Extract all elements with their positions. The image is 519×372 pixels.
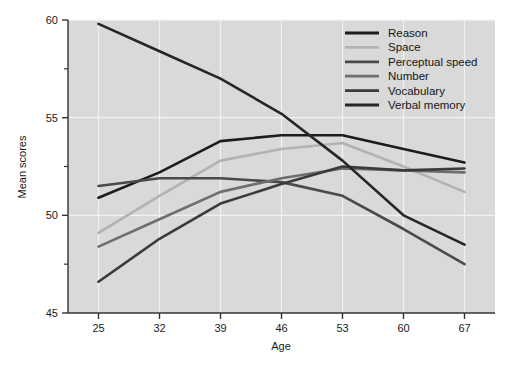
- x-axis-ticks: [99, 313, 465, 319]
- legend-label-space: Space: [388, 41, 421, 53]
- y-tick-label-55: 55: [46, 112, 58, 124]
- x-tick-label-25: 25: [92, 322, 104, 334]
- x-tick-label-60: 60: [397, 322, 409, 334]
- y-tick-label-50: 50: [46, 209, 58, 221]
- x-tick-label-32: 32: [153, 322, 165, 334]
- chart-canvas: 45505560 25323946536067 Mean scores Age …: [0, 0, 519, 372]
- y-axis-title: Mean scores: [16, 135, 28, 198]
- x-tick-label-39: 39: [214, 322, 226, 334]
- legend-label-vocabulary: Vocabulary: [388, 85, 445, 97]
- legend-label-perceptual-speed: Perceptual speed: [388, 56, 478, 68]
- x-axis-tick-labels: 25323946536067: [92, 322, 470, 334]
- legend-label-reason: Reason: [388, 27, 428, 39]
- x-tick-label-46: 46: [275, 322, 287, 334]
- x-tick-label-53: 53: [336, 322, 348, 334]
- line-chart-figure: 45505560 25323946536067 Mean scores Age …: [0, 0, 519, 372]
- y-axis-ticks: [62, 20, 68, 313]
- y-tick-label-60: 60: [46, 14, 58, 26]
- legend-label-verbal-memory: Verbal memory: [388, 99, 466, 111]
- legend-label-number: Number: [388, 70, 429, 82]
- y-axis-tick-labels: 45505560: [46, 14, 58, 319]
- x-tick-label-67: 67: [458, 322, 470, 334]
- y-tick-label-45: 45: [46, 307, 58, 319]
- x-axis-title: Age: [271, 340, 291, 352]
